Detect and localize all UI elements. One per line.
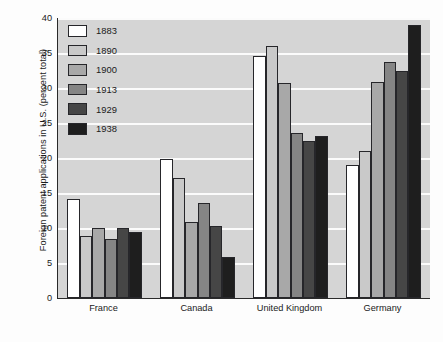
bar-united-kingdom-1913[interactable] bbox=[291, 133, 303, 298]
legend-item-1929[interactable]: 1929 bbox=[68, 99, 117, 119]
bar-france-1900[interactable] bbox=[92, 228, 104, 298]
y-axis-tick-labels: 0510152025303540 bbox=[24, 18, 52, 298]
legend-label-1929: 1929 bbox=[96, 104, 117, 115]
bar-germany-1883[interactable] bbox=[346, 165, 358, 298]
legend-label-1938: 1938 bbox=[96, 123, 117, 134]
legend-item-1890[interactable]: 1890 bbox=[68, 41, 117, 61]
bar-group-canada bbox=[151, 18, 244, 298]
legend-item-1900[interactable]: 1900 bbox=[68, 60, 117, 80]
legend-swatch-1938 bbox=[68, 123, 87, 135]
legend-swatch-1883 bbox=[68, 25, 87, 37]
x-axis-label-united-kingdom: United Kingdom bbox=[243, 303, 336, 313]
legend-label-1890: 1890 bbox=[96, 45, 117, 56]
y-axis-tick-label-25: 25 bbox=[24, 118, 52, 128]
legend: 188318901900191319291938 bbox=[68, 21, 117, 139]
legend-item-1913[interactable]: 1913 bbox=[68, 80, 117, 100]
bar-chart: Foreign patent applications in U.S. (per… bbox=[0, 0, 443, 342]
y-axis-tick-label-5: 5 bbox=[24, 258, 52, 268]
legend-item-1883[interactable]: 1883 bbox=[68, 21, 117, 41]
legend-item-1938[interactable]: 1938 bbox=[68, 119, 117, 139]
bar-germany-1900[interactable] bbox=[371, 82, 383, 298]
x-axis-label-canada: Canada bbox=[150, 303, 243, 313]
bar-canada-1890[interactable] bbox=[173, 178, 185, 298]
bar-united-kingdom-1900[interactable] bbox=[278, 83, 290, 298]
bar-germany-1890[interactable] bbox=[359, 151, 371, 298]
bar-group-united-kingdom bbox=[244, 18, 337, 298]
legend-label-1913: 1913 bbox=[96, 84, 117, 95]
legend-swatch-1913 bbox=[68, 84, 87, 96]
bar-united-kingdom-1938[interactable] bbox=[315, 136, 327, 298]
bar-france-1929[interactable] bbox=[117, 228, 129, 298]
bar-france-1913[interactable] bbox=[105, 239, 117, 299]
y-axis-tick-label-10: 10 bbox=[24, 223, 52, 233]
legend-swatch-1890 bbox=[68, 45, 87, 57]
bar-canada-1929[interactable] bbox=[210, 226, 222, 298]
bar-france-1883[interactable] bbox=[67, 199, 79, 298]
bar-germany-1938[interactable] bbox=[408, 25, 420, 298]
bar-france-1890[interactable] bbox=[80, 236, 92, 298]
bar-germany-1913[interactable] bbox=[384, 62, 396, 298]
bar-canada-1913[interactable] bbox=[198, 203, 210, 298]
x-axis-category-labels: FranceCanadaUnited KingdomGermany bbox=[57, 303, 429, 313]
bar-united-kingdom-1929[interactable] bbox=[303, 141, 315, 299]
bar-united-kingdom-1890[interactable] bbox=[266, 46, 278, 298]
y-axis-tick-label-40: 40 bbox=[24, 13, 52, 23]
y-axis-tick-label-35: 35 bbox=[24, 48, 52, 58]
legend-label-1883: 1883 bbox=[96, 25, 117, 36]
x-axis-label-france: France bbox=[57, 303, 150, 313]
legend-swatch-1900 bbox=[68, 64, 87, 76]
bar-canada-1883[interactable] bbox=[160, 159, 172, 298]
x-axis-label-germany: Germany bbox=[336, 303, 429, 313]
bar-canada-1900[interactable] bbox=[185, 222, 197, 298]
y-axis-tick-label-30: 30 bbox=[24, 83, 52, 93]
y-axis-tick-label-20: 20 bbox=[24, 153, 52, 163]
bar-group-germany bbox=[337, 18, 430, 298]
legend-swatch-1929 bbox=[68, 103, 87, 115]
legend-label-1900: 1900 bbox=[96, 64, 117, 75]
bar-united-kingdom-1883[interactable] bbox=[253, 56, 265, 298]
y-axis-tick-label-0: 0 bbox=[24, 293, 52, 303]
bar-france-1938[interactable] bbox=[129, 232, 141, 299]
y-axis-tick-label-15: 15 bbox=[24, 188, 52, 198]
bar-canada-1938[interactable] bbox=[222, 257, 234, 298]
bar-germany-1929[interactable] bbox=[396, 71, 408, 299]
